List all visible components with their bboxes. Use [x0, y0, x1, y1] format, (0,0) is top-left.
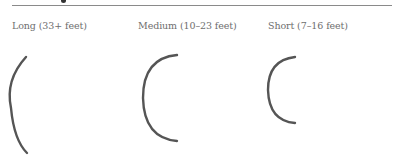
- medium-arc-icon: [143, 55, 177, 141]
- short-arc-icon: [268, 57, 295, 123]
- arc-diagram: [0, 0, 399, 165]
- long-arc-icon: [10, 57, 27, 153]
